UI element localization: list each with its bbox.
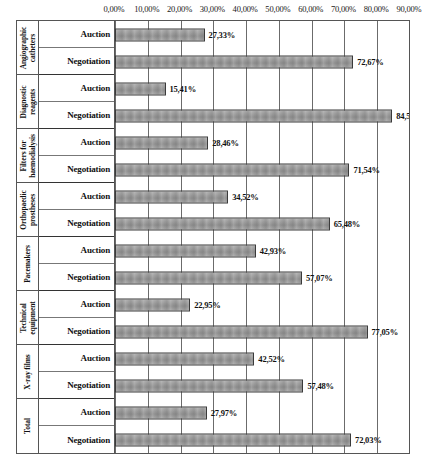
series-label-negotiation: Negotiation <box>39 102 114 129</box>
category-label-line: prostheses <box>28 190 37 229</box>
series-label-negotiation: Negotiation <box>39 426 114 453</box>
bar-value-label: 27,33% <box>209 30 235 40</box>
series-label-auction: Auction <box>39 129 114 156</box>
bar-value-label: 77,05% <box>372 327 398 337</box>
bar-row: 77,05% <box>115 318 409 345</box>
category-label-line: Orthopaedic <box>19 190 28 229</box>
category-label-text: Total <box>23 418 32 434</box>
series-label-negotiation: Negotiation <box>39 372 114 399</box>
category-label-line: catheters <box>28 26 37 69</box>
bar-negotiation <box>115 325 368 338</box>
horizontal-bar-chart: 0,00%10,00%20,00%30,00%40,00%50,00%60,00… <box>0 0 424 463</box>
x-tick-label: 90,00% <box>396 4 421 14</box>
bar-negotiation <box>115 433 351 446</box>
category-label-cell: Filters forhaemodialysis <box>17 129 38 183</box>
x-tick-label: 10,00% <box>134 4 159 14</box>
category-label-text: Diagnosticreagents <box>19 85 36 118</box>
bar-row: 34,52% <box>115 183 409 210</box>
x-tick-label: 30,00% <box>200 4 225 14</box>
x-tick-label: 0,00% <box>104 4 125 14</box>
bar-row: 28,46% <box>115 129 409 156</box>
category-label-text: Filters forhaemodialysis <box>19 134 36 178</box>
series-label-negotiation: Negotiation <box>39 48 114 75</box>
category-label-line: Technical <box>19 301 28 334</box>
series-label-negotiation: Negotiation <box>39 210 114 237</box>
bar-row: 42,52% <box>115 345 409 372</box>
category-label-cell: Angiographiccatheters <box>17 21 38 75</box>
bar-row: 72,67% <box>115 48 409 75</box>
x-tick-label: 80,00% <box>364 4 389 14</box>
x-tick-label: 60,00% <box>298 4 323 14</box>
bar-row: 22,95% <box>115 291 409 318</box>
x-tick-label: 20,00% <box>167 4 192 14</box>
bar-row: 57,48% <box>115 372 409 399</box>
bar-negotiation <box>115 163 349 176</box>
bar-auction <box>115 406 207 419</box>
category-label-text: Orthopaedicprostheses <box>19 190 36 229</box>
category-label-line: Total <box>23 418 32 434</box>
category-label-text: Angiographiccatheters <box>19 26 36 69</box>
bar-row: 84,59% <box>115 102 409 129</box>
category-label-text: Pacemakers <box>23 245 32 283</box>
bar-row: 27,97% <box>115 399 409 426</box>
bar-auction <box>115 244 256 257</box>
plot-frame: AngiographiccathetersDiagnosticreagentsF… <box>16 20 410 454</box>
series-label-auction: Auction <box>39 21 114 48</box>
bar-negotiation <box>115 271 302 284</box>
bar-row: 27,33% <box>115 21 409 48</box>
bar-value-label: 84,59% <box>396 111 409 121</box>
bar-negotiation <box>115 217 330 230</box>
category-label-line: Diagnostic <box>19 85 28 118</box>
category-label-column: AngiographiccathetersDiagnosticreagentsF… <box>17 21 39 453</box>
bar-value-label: 72,67% <box>357 57 383 67</box>
plot-area: 27,33%72,67%15,41%84,59%28,46%71,54%34,5… <box>115 21 409 453</box>
series-label-auction: Auction <box>39 183 114 210</box>
series-label-auction: Auction <box>39 75 114 102</box>
category-label-cell: Total <box>17 399 38 453</box>
bar-negotiation <box>115 109 392 122</box>
bar-value-label: 65,48% <box>334 219 360 229</box>
category-label-cell: X-ray films <box>17 345 38 399</box>
series-label-negotiation: Negotiation <box>39 156 114 183</box>
category-label-cell: Technicalequipment <box>17 291 38 345</box>
bar-value-label: 57,48% <box>307 381 333 391</box>
bar-row: 65,48% <box>115 210 409 237</box>
bar-value-label: 34,52% <box>232 192 258 202</box>
bar-value-label: 72,03% <box>355 435 381 445</box>
bar-value-label: 42,52% <box>258 354 284 364</box>
series-label-auction: Auction <box>39 237 114 264</box>
x-tick-label: 70,00% <box>331 4 356 14</box>
series-label-auction: Auction <box>39 345 114 372</box>
bar-auction <box>115 352 254 365</box>
category-label-line: Pacemakers <box>23 245 32 283</box>
x-tick-label: 40,00% <box>233 4 258 14</box>
x-axis-tick-labels: 0,00%10,00%20,00%30,00%40,00%50,00%60,00… <box>0 0 424 20</box>
category-label-cell: Pacemakers <box>17 237 38 291</box>
category-label-cell: Orthopaedicprostheses <box>17 183 38 237</box>
bar-value-label: 28,46% <box>212 138 238 148</box>
bar-auction <box>115 190 228 203</box>
bar-auction <box>115 28 205 41</box>
category-label-text: X-ray films <box>23 354 32 389</box>
category-label-line: reagents <box>28 85 37 118</box>
bar-negotiation <box>115 379 303 392</box>
bar-value-label: 22,95% <box>194 300 220 310</box>
bar-value-label: 42,93% <box>260 246 286 256</box>
bar-row: 42,93% <box>115 237 409 264</box>
bar-row: 71,54% <box>115 156 409 183</box>
bar-value-label: 27,97% <box>211 408 237 418</box>
bar-auction <box>115 82 166 95</box>
x-tick-label: 50,00% <box>265 4 290 14</box>
series-label-negotiation: Negotiation <box>39 264 114 291</box>
bar-value-label: 71,54% <box>353 165 379 175</box>
category-label-line: X-ray films <box>23 354 32 389</box>
bar-row: 72,03% <box>115 426 409 453</box>
category-label-line: Filters for <box>19 134 28 178</box>
category-label-line: equipment <box>28 301 37 334</box>
bar-auction <box>115 298 190 311</box>
category-label-text: Technicalequipment <box>19 301 36 334</box>
category-label-cell: Diagnosticreagents <box>17 75 38 129</box>
series-label-auction: Auction <box>39 291 114 318</box>
bar-value-label: 15,41% <box>170 84 196 94</box>
bar-negotiation <box>115 55 353 68</box>
